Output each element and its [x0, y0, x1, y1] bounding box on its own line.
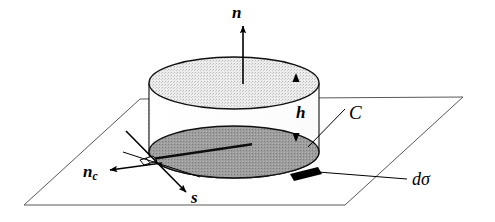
label-height-h: h	[296, 104, 305, 121]
figure-container: n h C nc s dσ	[0, 0, 495, 222]
label-curve-c: C	[349, 103, 362, 122]
label-surface-element-dsigma: dσ	[412, 170, 430, 188]
label-normal-n: n	[232, 4, 241, 21]
label-contour-normal-subscript: c	[92, 170, 97, 183]
label-contour-normal-nc: nc	[83, 163, 98, 182]
contour-normal-arrow	[110, 163, 162, 170]
d-sigma-leader-line	[318, 172, 407, 179]
cylinder-top-disc	[149, 57, 319, 109]
label-tangent-s: s	[191, 189, 198, 206]
